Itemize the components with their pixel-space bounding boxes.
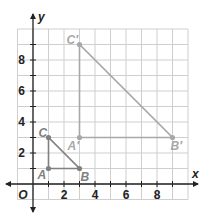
y-axis-down-arrow-icon bbox=[30, 207, 36, 213]
x-tick-label: 2 bbox=[61, 188, 68, 202]
x-axis-left-arrow-icon bbox=[5, 181, 11, 187]
graph: 24682468OxyABCA′B′C′ bbox=[0, 0, 205, 220]
vertex-label: A bbox=[37, 168, 47, 182]
y-tick-label: 4 bbox=[18, 115, 25, 129]
vertex-label: C′ bbox=[67, 33, 80, 47]
y-axis-label: y bbox=[37, 10, 46, 24]
y-axis-up-arrow-icon bbox=[30, 13, 36, 19]
vertex-label: B bbox=[81, 170, 90, 184]
y-tick-label: 8 bbox=[18, 53, 25, 67]
axes bbox=[5, 13, 199, 213]
y-tick-label: 6 bbox=[18, 84, 25, 98]
vertex-label: A′ bbox=[67, 139, 81, 153]
vertex-point bbox=[46, 166, 51, 171]
x-axis-label: x bbox=[191, 167, 200, 181]
x-axis-right-arrow-icon bbox=[193, 181, 199, 187]
origin-label: O bbox=[18, 188, 28, 202]
x-tick-label: 6 bbox=[123, 188, 130, 202]
vertex-label: C bbox=[39, 126, 48, 140]
vertex-label: B′ bbox=[171, 139, 184, 153]
y-tick-label: 2 bbox=[18, 146, 25, 160]
x-tick-label: 4 bbox=[92, 188, 99, 202]
x-tick-label: 8 bbox=[154, 188, 161, 202]
coordinate-plane-diagram: 24682468OxyABCA′B′C′ bbox=[0, 0, 205, 220]
